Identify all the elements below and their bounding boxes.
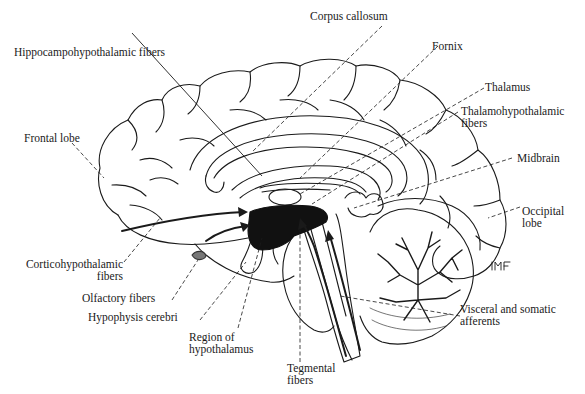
cortico-arrow-2	[206, 226, 246, 241]
tectum	[345, 192, 383, 217]
label-tegmental-fibers: Tegmental fibers	[287, 362, 335, 386]
cingulate-gyrus	[190, 116, 428, 204]
cortico-arrow-1	[122, 212, 244, 231]
leader-region	[238, 238, 262, 328]
cerebellum	[360, 209, 473, 344]
leader-olfactory	[172, 260, 198, 300]
label-corpus-callosum: Corpus callosum	[310, 10, 388, 22]
label-olfactory-fibers: Olfactory fibers	[82, 292, 155, 304]
label-thalamus: Thalamus	[485, 81, 530, 93]
brain-illustration	[0, 0, 585, 394]
cerebrum-outline	[99, 59, 506, 279]
label-region-of-hypothalamus: Region of hypothalamus	[189, 331, 254, 355]
label-hippocampohypothalamic-fibers: Hippocampohypothalamic fibers	[14, 46, 165, 58]
brain-diagram: Corpus callosum Hippocampohypothalamic f…	[0, 0, 585, 394]
leader-hypophysis	[200, 262, 246, 320]
label-frontal-lobe: Frontal lobe	[24, 132, 80, 144]
label-hypophysis-cerebri: Hypophysis cerebri	[88, 311, 178, 323]
label-fornix: Fornix	[432, 40, 463, 52]
label-visceral-somatic-afferents: Visceral and somatic afferents	[460, 303, 556, 327]
label-thalamohypothalamic-fibers: Thalamohypothalamic fibers	[461, 105, 564, 129]
olfactory-bulb	[192, 251, 206, 259]
label-occipital-lobe: Occipital lobe	[522, 205, 564, 229]
temporal-lobe	[195, 244, 294, 282]
label-corticohypothalamic-fibers: Corticohypothalamic fibers	[8, 258, 123, 282]
hypothalamus-region	[248, 205, 327, 250]
leader-visceral	[340, 296, 460, 316]
leader-corpus-callosum	[252, 26, 382, 152]
leader-fornix	[300, 46, 438, 178]
thalamus	[269, 189, 301, 205]
label-midbrain: Midbrain	[517, 152, 560, 164]
ascending-arrow-2	[330, 236, 360, 350]
